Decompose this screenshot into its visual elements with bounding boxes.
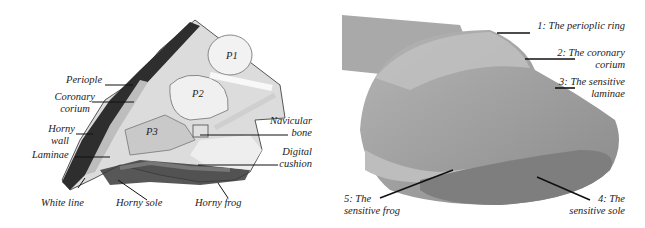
label-horny-frog: Horny frog xyxy=(195,197,242,209)
bone-label-p3: P3 xyxy=(146,126,158,138)
label-coronary-corium-line1: 2: The coronary xyxy=(520,47,625,59)
label-coronary-corium-line1: Coronary xyxy=(50,91,95,103)
label-navicular-bone-line2: bone xyxy=(250,127,312,139)
label-coronary-corium-line2: corium xyxy=(55,103,95,115)
hoof-section-illustration xyxy=(0,0,320,228)
bone-label-p1: P1 xyxy=(226,50,238,62)
label-digital-cushion-line2: cushion xyxy=(250,158,312,170)
label-white-line: White line xyxy=(41,197,84,209)
label-digital-cushion-line1: Digital xyxy=(250,146,312,158)
label-sensitive-frog-line2: sensitive frog xyxy=(344,205,400,217)
label-perioplic-ring: 1: The perioplic ring xyxy=(520,20,625,32)
label-sensitive-sole-line1: 4: The xyxy=(520,193,625,205)
label-horny-sole: Horny sole xyxy=(116,197,162,209)
label-laminae: Laminae xyxy=(32,149,69,161)
label-horny-wall-line2: wall xyxy=(45,135,75,147)
hoof-section-diagram: P1 P2 P3 Periople Coronary corium Horny … xyxy=(0,0,320,228)
label-sensitive-laminae-line1: 3: The sensitive xyxy=(520,76,625,88)
label-sensitive-laminae-line2: laminae xyxy=(520,88,625,100)
label-horny-wall-line1: Horny xyxy=(40,123,75,135)
label-sensitive-frog-line1: 5: The xyxy=(344,193,371,205)
label-coronary-corium-line2: corium xyxy=(520,59,625,71)
label-periople: Periople xyxy=(66,74,102,86)
bone-label-p2: P2 xyxy=(192,88,204,100)
label-navicular-bone-line1: Navicular xyxy=(250,115,312,127)
label-sensitive-sole-line2: sensitive sole xyxy=(520,205,625,217)
hoof-corium-model: 1: The perioplic ring 2: The coronary co… xyxy=(320,0,645,228)
